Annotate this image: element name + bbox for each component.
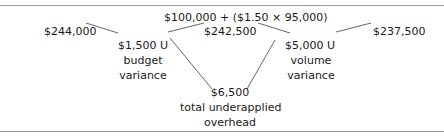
budget-variance-label-1: budget [118, 54, 168, 67]
applied-overhead-value: $237,500 [373, 25, 426, 38]
total-label-1: total underapplied [180, 101, 280, 114]
volume-variance-label-2: variance [285, 69, 337, 82]
total-label-2: overhead [180, 116, 280, 129]
volume-variance-label-1: volume [285, 54, 337, 67]
total-value: $6,500 [180, 86, 280, 99]
actual-overhead-value: $244,000 [44, 25, 97, 38]
formula-label: $100,000 + ($1.50 × 95,000) [164, 11, 327, 24]
budget-variance-label-2: variance [118, 69, 168, 82]
budget-allowed-value: $242,500 [204, 25, 257, 38]
budget-variance-value: $1,500 U [118, 39, 168, 52]
volume-variance-value: $5,000 U [285, 39, 335, 52]
